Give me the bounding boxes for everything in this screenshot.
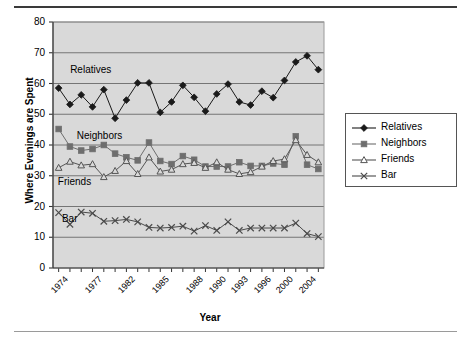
- legend-marker-filled-square-icon: [350, 136, 378, 148]
- legend-label: Friends: [378, 153, 414, 164]
- legend-item-neighbors[interactable]: Neighbors: [346, 134, 456, 150]
- y-tick-label: 30: [19, 170, 45, 181]
- legend-item-relatives[interactable]: Relatives: [346, 118, 456, 134]
- y-tick-label: 70: [19, 47, 45, 58]
- data-point: [101, 142, 107, 148]
- data-point: [237, 159, 243, 165]
- data-point: [112, 151, 118, 157]
- legend-item-friends[interactable]: Friends: [346, 150, 456, 166]
- inplot-label-neighbors: Neighbors: [77, 130, 123, 141]
- data-point: [67, 144, 73, 150]
- y-tick-label: 50: [19, 108, 45, 119]
- inplot-label-bar: Bar: [62, 213, 78, 224]
- y-tick-label: 60: [19, 78, 45, 89]
- inplot-label-relatives: Relatives: [70, 64, 111, 75]
- y-tick-label: 0: [19, 262, 45, 273]
- data-point: [135, 158, 141, 164]
- legend-marker-cross-icon: [350, 168, 378, 180]
- data-point: [78, 148, 84, 154]
- legend-label: Relatives: [378, 121, 422, 132]
- data-point: [157, 158, 163, 164]
- legend-marker-filled-diamond-icon: [350, 120, 378, 132]
- y-tick-label: 80: [19, 16, 45, 27]
- y-tick-label: 10: [19, 231, 45, 242]
- data-point: [282, 162, 288, 168]
- legend-label: Bar: [378, 169, 397, 180]
- data-point: [56, 126, 62, 132]
- legend-marker-open-triangle-icon: [350, 152, 378, 164]
- data-point: [180, 153, 186, 159]
- chart-legend: RelativesNeighborsFriendsBar: [345, 113, 457, 187]
- x-axis-title: Year: [150, 312, 270, 323]
- data-point: [146, 140, 152, 146]
- legend-item-bar[interactable]: Bar: [346, 166, 456, 182]
- data-point: [316, 166, 322, 172]
- data-point: [90, 146, 96, 152]
- y-tick-label: 40: [19, 139, 45, 150]
- y-tick-label: 20: [19, 201, 45, 212]
- inplot-label-friends: Friends: [58, 176, 91, 187]
- chart-figure: Where Evenings are Spent Year 0102030405…: [0, 0, 471, 346]
- legend-label: Neighbors: [378, 137, 427, 148]
- data-point: [304, 162, 310, 168]
